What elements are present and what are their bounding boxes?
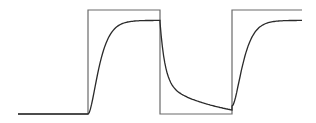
chart [0,0,316,123]
plot-area [18,10,302,114]
